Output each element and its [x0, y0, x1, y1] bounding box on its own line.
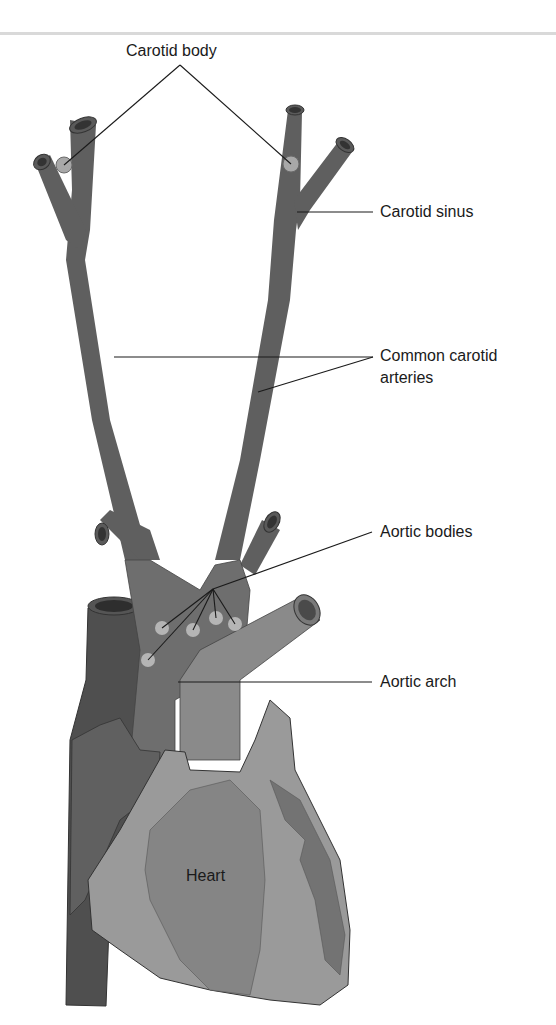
label-common-carotid-line1: Common carotid: [380, 346, 497, 366]
label-carotid-sinus: Carotid sinus: [380, 202, 473, 222]
label-aortic-bodies: Aortic bodies: [380, 522, 473, 542]
label-aortic-arch: Aortic arch: [380, 672, 456, 692]
subclavian-branches: [95, 509, 284, 575]
left-carotid-artery: [31, 114, 150, 560]
label-carotid-body: Carotid body: [126, 41, 217, 61]
label-heart: Heart: [186, 866, 225, 886]
label-common-carotid-line2: arteries: [380, 368, 433, 388]
right-carotid-artery: [215, 105, 357, 560]
carotid-aortic-diagram: [0, 0, 556, 1025]
